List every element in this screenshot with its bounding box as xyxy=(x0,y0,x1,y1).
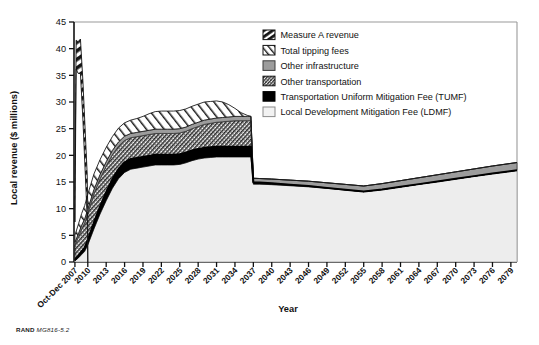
legend-label: Other infrastructure xyxy=(281,61,359,71)
legend-label: Transportation Uniform Mitigation Fee (T… xyxy=(281,92,467,102)
x-tick-label: 2052 xyxy=(330,265,350,285)
x-tick-label: 2028 xyxy=(183,265,203,285)
x-tick-label: Oct-Dec 2007 xyxy=(35,265,80,310)
y-axis-title: Local revenue ($ millions) xyxy=(9,91,19,205)
legend-swatch xyxy=(263,61,275,71)
x-tick-label: 2034 xyxy=(219,265,239,285)
x-tick-label: 2019 xyxy=(127,265,147,285)
y-axis-tick-labels: 051015202530354045 xyxy=(56,17,66,267)
x-axis-title: Year xyxy=(278,304,298,314)
legend-item: Transportation Uniform Mitigation Fee (T… xyxy=(263,92,467,102)
y-tick-label: 35 xyxy=(56,71,66,81)
y-tick-label: 20 xyxy=(56,151,66,161)
x-tick-label: 2046 xyxy=(293,265,313,285)
x-tick-label: 2040 xyxy=(256,265,276,285)
x-tick-label: 2079 xyxy=(495,265,515,285)
legend-item: Local Development Mitigation Fee (LDMF) xyxy=(263,107,451,117)
legend-swatch xyxy=(263,107,275,117)
source-note: RAND MG816-5.2 xyxy=(16,326,69,333)
x-axis-tick-labels: Oct-Dec 20072010201320162019202220252028… xyxy=(35,265,516,310)
legend-swatch xyxy=(263,92,275,102)
y-tick-label: 45 xyxy=(56,17,66,27)
x-tick-label: 2073 xyxy=(458,265,478,285)
legend-label: Other transportation xyxy=(281,77,362,87)
legend-label: Total tipping fees xyxy=(281,46,350,56)
figure-container: 051015202530354045 Oct-Dec 2007201020132… xyxy=(0,0,539,345)
y-tick-label: 15 xyxy=(56,177,66,187)
x-tick-label: 2064 xyxy=(403,265,423,285)
x-tick-label: 2061 xyxy=(385,265,405,285)
x-tick-label: 2013 xyxy=(91,265,111,285)
x-tick-label: 2070 xyxy=(440,265,460,285)
x-tick-label: 2049 xyxy=(311,265,331,285)
y-tick-label: 40 xyxy=(56,44,66,54)
x-tick-label: 2067 xyxy=(422,265,442,285)
x-tick-label: 2037 xyxy=(238,265,258,285)
source-note-id: MG816-5.2 xyxy=(37,326,70,333)
y-tick-label: 10 xyxy=(56,204,66,214)
x-tick-label: 2058 xyxy=(366,265,386,285)
legend-label: Local Development Mitigation Fee (LDMF) xyxy=(281,107,452,117)
legend-label: Measure A revenue xyxy=(281,30,359,40)
x-tick-label: 2076 xyxy=(477,265,497,285)
x-tick-label: 2031 xyxy=(201,265,221,285)
revenue-stacked-area-chart: 051015202530354045 Oct-Dec 2007201020132… xyxy=(0,0,539,345)
x-tick-label: 2022 xyxy=(146,265,166,285)
legend-swatch xyxy=(263,30,275,40)
y-tick-label: 30 xyxy=(56,97,66,107)
y-tick-label: 5 xyxy=(61,231,66,241)
legend-swatch xyxy=(263,45,275,55)
x-tick-label: 2055 xyxy=(348,265,368,285)
y-tick-label: 25 xyxy=(56,124,66,134)
x-tick-label: 2043 xyxy=(274,265,294,285)
source-note-org: RAND xyxy=(16,326,35,333)
x-tick-label: 2016 xyxy=(109,265,129,285)
y-tick-label: 0 xyxy=(61,257,66,267)
legend-swatch xyxy=(263,76,275,86)
x-tick-label: 2025 xyxy=(164,265,184,285)
